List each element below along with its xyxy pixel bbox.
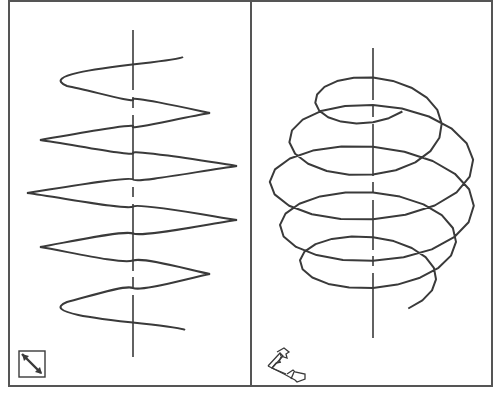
oblique-view-panel	[268, 48, 474, 382]
figure-canvas	[0, 0, 499, 403]
helix-curve-side	[27, 57, 237, 330]
3d-axes-icon[interactable]	[268, 348, 305, 382]
helix-curve-oblique	[270, 78, 474, 309]
helix-figure	[0, 0, 499, 403]
diagonal-arrow-icon[interactable]	[19, 351, 45, 377]
side-view-panel	[19, 30, 237, 377]
